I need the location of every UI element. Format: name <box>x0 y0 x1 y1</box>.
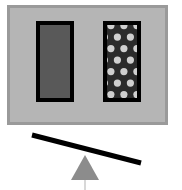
container-panel <box>9 7 167 124</box>
polka-dot <box>120 68 127 75</box>
polka-dot <box>107 45 114 52</box>
figure-canvas <box>0 0 182 190</box>
right-block <box>101 21 141 102</box>
polka-dot <box>127 33 134 40</box>
polka-dot <box>120 45 127 52</box>
right-block-body <box>103 21 141 102</box>
polka-dot <box>127 56 134 63</box>
polka-dot <box>127 79 134 86</box>
polka-dot <box>107 91 114 98</box>
polka-dot <box>120 91 127 98</box>
polka-dot <box>114 56 121 63</box>
polka-dot <box>114 79 121 86</box>
left-block <box>38 23 72 100</box>
polka-dot <box>107 68 114 75</box>
polka-dot <box>114 33 121 40</box>
diagram-svg <box>0 0 182 190</box>
